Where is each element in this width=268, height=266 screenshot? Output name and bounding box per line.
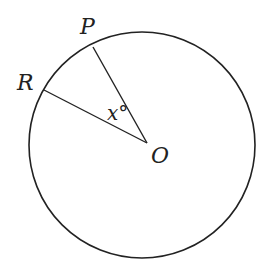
label-r: R	[16, 70, 34, 95]
label-p: P	[79, 14, 96, 39]
angle-label-x: x°	[107, 101, 128, 125]
circle	[29, 32, 255, 258]
label-o: O	[151, 143, 169, 168]
circle-diagram: P R O x°	[0, 0, 268, 266]
